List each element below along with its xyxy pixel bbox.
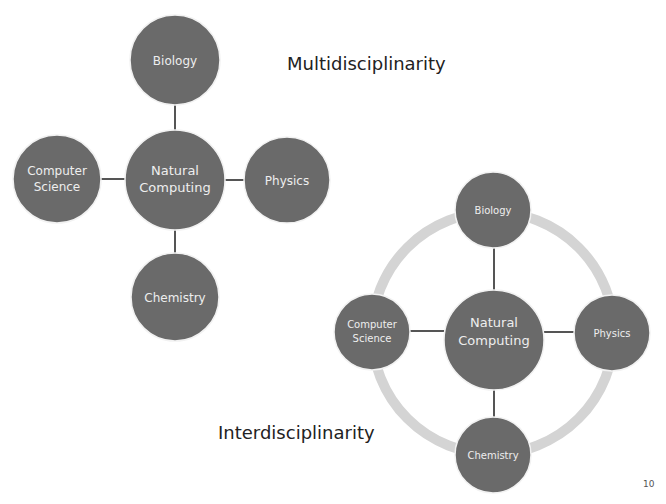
node-natural-computing-line2: Computing (458, 333, 529, 348)
node-natural-computing: Natural Computing (444, 290, 544, 390)
node-computer-science-line2: Science (353, 333, 392, 344)
multidisciplinarity-title: Multidisciplinarity (287, 53, 446, 74)
node-chemistry: Chemistry (455, 417, 531, 493)
node-physics-label: Physics (594, 328, 631, 339)
node-physics: Physics (574, 295, 650, 371)
node-chemistry-label: Chemistry (467, 450, 518, 461)
node-biology: Biology (130, 15, 220, 105)
node-computer-science: Computer Science (13, 135, 101, 223)
interdisciplinarity-title: Interdisciplinarity (218, 422, 375, 443)
node-computer-science-line1: Computer (347, 319, 398, 330)
node-biology: Biology (455, 172, 531, 248)
node-computer-science-line2: Science (34, 180, 81, 194)
node-computer-science: Computer Science (334, 294, 410, 370)
node-biology-label: Biology (475, 205, 512, 216)
node-biology-label: Biology (153, 54, 197, 68)
node-natural-computing: Natural Computing (125, 130, 225, 230)
node-natural-computing-line1: Natural (151, 163, 199, 178)
page-number: 10 (643, 479, 655, 489)
node-physics: Physics (244, 137, 330, 223)
node-chemistry-label: Chemistry (144, 291, 205, 305)
node-physics-label: Physics (265, 174, 309, 188)
slide-canvas: Biology Natural Computing Computer Scien… (0, 0, 666, 504)
node-chemistry: Chemistry (131, 253, 219, 341)
node-natural-computing-line1: Natural (470, 315, 518, 330)
node-natural-computing-line2: Computing (139, 180, 210, 195)
node-computer-science-line1: Computer (27, 164, 87, 178)
